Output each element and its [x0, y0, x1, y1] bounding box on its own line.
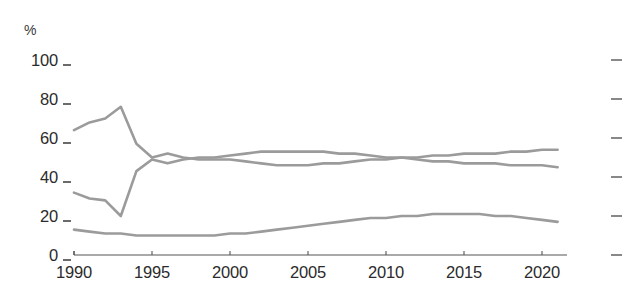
data-lines-group: [74, 107, 558, 236]
x-tick-label: 2015: [429, 263, 499, 282]
axis-group: [74, 251, 567, 255]
x-tick-label: 1995: [117, 263, 187, 282]
y-tick-label: 80: [12, 90, 58, 109]
x-tick-label: 2020: [507, 263, 577, 282]
data-line-series-a: [74, 107, 558, 166]
tick-marks-group: [63, 60, 622, 260]
x-tick-label: 1990: [39, 263, 109, 282]
x-tick-label: 2005: [273, 263, 343, 282]
y-tick-label: 20: [12, 207, 58, 226]
y-tick-label: 40: [12, 168, 58, 187]
x-tick-label: 2000: [195, 263, 265, 282]
data-line-series-b: [74, 152, 558, 216]
x-tick-label: 2010: [351, 263, 421, 282]
line-chart: % 020406080100 1990199520002005201020152…: [0, 0, 638, 298]
data-line-series-c: [74, 214, 558, 235]
chart-canvas: [0, 0, 638, 298]
y-tick-label: 100: [12, 51, 58, 70]
y-tick-label: 60: [12, 129, 58, 148]
